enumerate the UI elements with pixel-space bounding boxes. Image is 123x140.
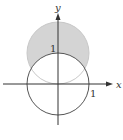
x-axis-arrow-icon xyxy=(106,82,113,87)
polar-diagram: x y 1 1 xyxy=(0,0,123,140)
y-tick-label: 1 xyxy=(50,43,56,54)
x-axis-label: x xyxy=(116,79,122,90)
x-tick-label: 1 xyxy=(90,88,96,99)
y-axis-arrow-icon xyxy=(56,13,61,20)
y-axis-label: y xyxy=(54,2,61,13)
